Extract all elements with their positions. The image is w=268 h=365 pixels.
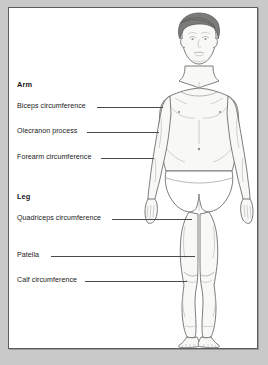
figure-canvas: Arm Biceps circumference Olecranon proce… <box>9 8 257 348</box>
label-olecranon-process: Olecranon process <box>17 127 77 135</box>
label-quadriceps-circumference: Quadriceps circumference <box>17 214 101 222</box>
figure-root: Arm Biceps circumference Olecranon proce… <box>0 0 268 365</box>
label-biceps-circumference: Biceps circumference <box>17 102 86 110</box>
label-forearm-circumference: Forearm circumference <box>17 153 91 161</box>
leader-line-calf <box>85 281 187 282</box>
leader-line-patella <box>51 256 195 257</box>
human-body-illustration <box>9 8 257 348</box>
leader-line-olecranon <box>87 132 159 133</box>
label-patella: Patella <box>17 251 39 259</box>
group-heading-arm: Arm <box>17 80 32 89</box>
leader-line-quadriceps <box>112 219 192 220</box>
figure-frame: Arm Biceps circumference Olecranon proce… <box>8 7 258 349</box>
leader-line-forearm <box>101 158 154 159</box>
label-calf-circumference: Calf circumference <box>17 276 77 284</box>
leader-line-biceps <box>97 107 163 108</box>
group-heading-leg: Leg <box>17 192 30 201</box>
